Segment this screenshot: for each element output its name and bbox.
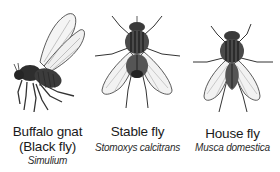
- common-name: Stable fly: [90, 124, 185, 139]
- common-name: Buffalo gnat: [0, 124, 95, 139]
- fly-panel-stable-fly: Stable fly Stomoxys calcitrans: [90, 0, 185, 172]
- scientific-name: Stomoxys calcitrans: [90, 142, 185, 154]
- house-fly-illustration: [185, 0, 280, 125]
- common-name: House fly: [185, 126, 280, 141]
- scientific-name: Musca domestica: [185, 142, 280, 154]
- scientific-name: Simulium: [0, 155, 95, 167]
- common-name-alt: (Black fly): [0, 139, 95, 154]
- fly-panel-buffalo-gnat: Buffalo gnat (Black fly) Simulium: [0, 0, 95, 172]
- fly-panel-house-fly: House fly Musca domestica: [185, 0, 280, 172]
- buffalo-gnat-illustration: [0, 0, 95, 125]
- stable-fly-illustration: [90, 0, 185, 125]
